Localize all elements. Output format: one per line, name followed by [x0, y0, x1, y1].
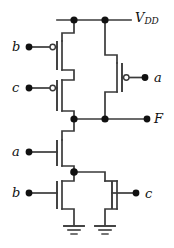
output-label-f: F: [154, 112, 163, 125]
pmos-b-inversion-bubble-icon: [50, 44, 55, 49]
ground-right: [95, 226, 115, 234]
nmos-c-source-wire: [105, 209, 117, 225]
pmos-b-drain-wire: [62, 70, 74, 80]
vdd-node-right-dot: [101, 16, 108, 23]
pmos-b-source-wire: [62, 20, 74, 41]
nmos-series-node-dot: [70, 168, 78, 176]
output-node-left-dot: [70, 115, 77, 122]
circuit-figure: VDD F b c a b a c: [0, 0, 174, 248]
input-label-a-bottom: a: [12, 145, 20, 158]
pmos-a-drain-wire: [105, 92, 117, 119]
input-terminal-c-top-dot[interactable]: [26, 85, 33, 92]
input-terminal-a-bottom-dot[interactable]: [26, 149, 33, 156]
output-terminal-dot: [144, 116, 151, 123]
nmos-parallel-drain-rail: [74, 172, 105, 181]
nmos-b-source-wire: [62, 209, 74, 225]
input-terminal-c-right-dot[interactable]: [133, 190, 140, 197]
input-label-b-bottom: b: [12, 186, 20, 199]
input-label-c-right: c: [145, 187, 152, 200]
vdd-node-left-dot: [70, 16, 77, 23]
input-label-c-top: c: [12, 81, 19, 94]
pmos-a-source-wire: [105, 20, 117, 63]
schematic-svg: [0, 0, 174, 248]
pmos-a-inversion-bubble-icon: [124, 75, 129, 80]
pmos-c-inversion-bubble-icon: [50, 85, 55, 90]
input-terminal-a-right-dot[interactable]: [142, 74, 149, 81]
nmos-a-drain-wire: [62, 119, 74, 140]
input-terminal-b-bottom-dot[interactable]: [26, 190, 33, 197]
input-label-a-right: a: [154, 71, 162, 84]
input-terminal-b-top-dot[interactable]: [26, 44, 33, 51]
output-node-mid-dot: [101, 115, 108, 122]
vdd-label: VDD: [135, 11, 158, 24]
input-label-b-top: b: [12, 40, 20, 53]
ground-left: [64, 226, 84, 234]
